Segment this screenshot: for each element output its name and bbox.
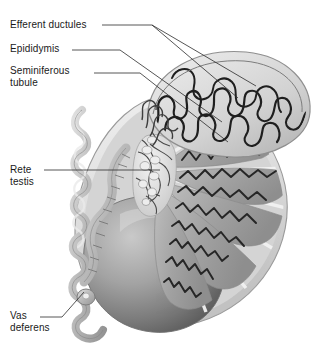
label-vas-deferens: Vas deferens: [10, 310, 50, 333]
epididymis-group: [148, 52, 318, 158]
label-rete-testis: Rete testis: [10, 164, 34, 187]
label-seminiferous-tubule: Seminiferous tubule: [10, 65, 70, 88]
anatomy-figure: Efferent ductules Epididymis Seminiferou…: [0, 0, 324, 356]
label-efferent-ductules: Efferent ductules: [10, 19, 87, 31]
label-epididymis: Epididymis: [10, 43, 59, 55]
vas-deferens-terminal-lumen: [83, 293, 90, 299]
